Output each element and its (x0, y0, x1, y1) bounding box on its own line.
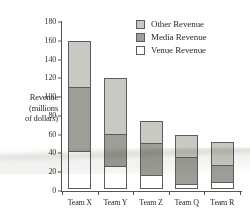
bar-segment-venue-revenue[interactable] (104, 166, 127, 189)
bar-segment-venue-revenue[interactable] (140, 175, 163, 189)
y-axis-tick-mark (58, 78, 62, 79)
y-axis-tick-mark (58, 153, 62, 154)
bar-segment-other-revenue[interactable] (175, 135, 198, 158)
x-axis-tick-mark (98, 191, 99, 195)
legend-item-other-revenue: Other Revenue (136, 19, 206, 29)
y-axis-tick-mark (58, 59, 62, 60)
bar-segment-media-revenue[interactable] (104, 134, 127, 167)
legend-swatch-venue-revenue (136, 46, 145, 55)
y-axis-tick-mark (58, 22, 62, 23)
bar-segment-media-revenue[interactable] (175, 157, 198, 185)
x-axis-label-team-y: Team Y (103, 198, 127, 207)
stacked-bar-chart: Revenue (millions of dollars) 0204060801… (0, 0, 250, 221)
legend-item-media-revenue: Media Revenue (136, 32, 206, 42)
legend-swatch-media-revenue (136, 33, 145, 42)
bar-segment-other-revenue[interactable] (68, 41, 91, 88)
legend-label-other-revenue: Other Revenue (151, 19, 204, 29)
stacked-bar[interactable] (68, 41, 91, 191)
legend-label-media-revenue: Media Revenue (151, 32, 206, 42)
bar-segment-media-revenue[interactable] (68, 87, 91, 153)
bar-segment-venue-revenue[interactable] (211, 182, 234, 189)
y-axis-tick-mark (58, 172, 62, 173)
y-axis-tick-mark (58, 40, 62, 41)
x-axis-tick-mark (62, 191, 63, 195)
x-axis-label-team-z: Team Z (139, 198, 162, 207)
stacked-bar[interactable] (140, 121, 163, 191)
chart-legend: Other Revenue Media Revenue Venue Revenu… (136, 19, 206, 55)
stacked-bar[interactable] (104, 78, 127, 191)
bar-segment-media-revenue[interactable] (211, 165, 234, 184)
x-axis-label-team-x: Team X (68, 198, 92, 207)
stacked-bar[interactable] (175, 135, 198, 191)
bar-segment-venue-revenue[interactable] (68, 151, 91, 189)
legend-label-venue-revenue: Venue Revenue (151, 45, 206, 55)
bar-segment-venue-revenue[interactable] (175, 184, 198, 189)
bar-segment-media-revenue[interactable] (140, 143, 163, 176)
bar-segment-other-revenue[interactable] (211, 142, 234, 165)
y-axis-tick-mark (58, 97, 62, 98)
y-axis-tick-mark (58, 115, 62, 116)
y-axis-tick-mark (58, 134, 62, 135)
x-axis-tick-mark (204, 191, 205, 195)
bar-segment-other-revenue[interactable] (140, 121, 163, 144)
legend-item-venue-revenue: Venue Revenue (136, 45, 206, 55)
stacked-bar[interactable] (211, 142, 234, 191)
bar-group (211, 22, 234, 191)
x-axis-tick-mark (133, 191, 134, 195)
legend-swatch-other-revenue (136, 20, 145, 29)
x-axis-tick-mark (240, 191, 241, 195)
x-axis-label-team-r: Team R (210, 198, 234, 207)
x-axis-label-team-q: Team Q (174, 198, 198, 207)
x-axis-tick-mark (169, 191, 170, 195)
x-axis-line (61, 191, 242, 192)
bar-segment-other-revenue[interactable] (104, 78, 127, 134)
bar-group (68, 22, 91, 191)
bar-group (104, 22, 127, 191)
